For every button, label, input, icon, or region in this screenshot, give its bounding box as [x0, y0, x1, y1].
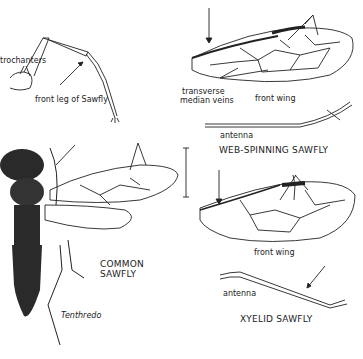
label-antenna-xyelid: antenna	[223, 289, 256, 298]
common-sawfly-wings-drawing	[45, 143, 178, 229]
label-front-leg: front leg of Sawfly	[35, 95, 108, 104]
antenna-xyelid-drawing	[220, 266, 347, 308]
label-genus-tenthredo: Tenthredo	[61, 311, 101, 320]
caption-common: COMMON	[100, 259, 144, 269]
front-wing-bottom-drawing	[200, 170, 355, 242]
illustration	[0, 0, 363, 359]
label-front-wing-bottom: front wing	[254, 248, 295, 257]
label-front-wing-top: front wing	[255, 94, 296, 103]
front-wing-top-drawing	[192, 8, 353, 82]
antenna-web-drawing	[205, 102, 352, 127]
scale-bar	[183, 148, 189, 197]
label-trochanters: trochanters	[0, 56, 46, 65]
label-median-veins: median veins	[180, 96, 234, 105]
label-transverse: transverse	[182, 87, 225, 96]
arrow-antenna-common	[56, 145, 75, 165]
arrow-leg	[60, 62, 83, 85]
caption-sawfly: SAWFLY	[100, 269, 136, 279]
caption-web-spinning-sawfly: WEB-SPINNING SAWFLY	[219, 145, 328, 155]
caption-xyelid-sawfly: XYELID SAWFLY	[240, 314, 312, 324]
label-antenna-web: antenna	[220, 131, 253, 140]
